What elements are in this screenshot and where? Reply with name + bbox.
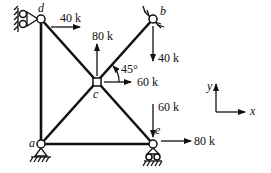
node-e	[149, 140, 157, 148]
node-a	[37, 140, 45, 148]
svg-text:45°: 45°	[121, 62, 138, 76]
node-label-e: e	[155, 123, 161, 137]
svg-text:60 k: 60 k	[158, 100, 179, 114]
roller-support-d	[14, 6, 38, 32]
svg-text:80 k: 80 k	[92, 29, 113, 43]
svg-text:40 k: 40 k	[60, 11, 81, 25]
node-b	[149, 15, 157, 23]
load-d-40k: 40 k	[51, 11, 81, 27]
node-c	[93, 78, 101, 86]
load-b-40k: 40 k	[153, 26, 179, 65]
angle-arc-icon	[113, 66, 119, 82]
y-axis-label: y	[206, 79, 213, 93]
svg-text:80 k: 80 k	[194, 134, 215, 148]
svg-text:60 k: 60 k	[137, 75, 158, 89]
angle-45: 45°	[113, 62, 138, 82]
svg-text:40 k: 40 k	[158, 51, 179, 65]
roller-support-e	[143, 148, 162, 166]
load-e-80k: 80 k	[161, 134, 215, 148]
truss-diagram: d b c a e 40 k 80 k 60 k 45° 40 k 60 k 8…	[0, 0, 271, 173]
x-axis-label: x	[249, 104, 256, 118]
coordinate-axes: y x	[206, 79, 256, 118]
pin-support-a	[30, 148, 51, 162]
node-label-b: b	[160, 4, 166, 18]
load-c-60k: 60 k	[104, 75, 158, 89]
node-d	[37, 15, 45, 23]
node-label-d: d	[38, 1, 45, 15]
node-label-c: c	[93, 87, 99, 101]
node-label-a: a	[29, 136, 35, 150]
